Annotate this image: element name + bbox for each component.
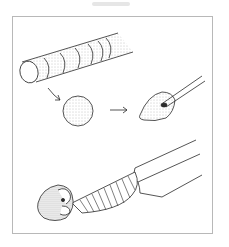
attached-to-handle: [38, 140, 202, 221]
process-illustration: [0, 0, 229, 247]
cone-on-stick: [140, 76, 206, 121]
sliced-cylinder: [17, 33, 133, 85]
ball: [63, 96, 93, 126]
arrow-1-icon: [48, 88, 60, 100]
arrow-2-icon: [110, 107, 127, 113]
